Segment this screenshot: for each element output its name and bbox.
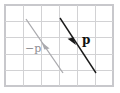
vector-figure-svg: −p p [0, 0, 120, 93]
vector-diagram: −p p [0, 0, 120, 93]
vector-negative-p-label: −p [25, 42, 41, 55]
vector-p-label: p [82, 33, 90, 47]
